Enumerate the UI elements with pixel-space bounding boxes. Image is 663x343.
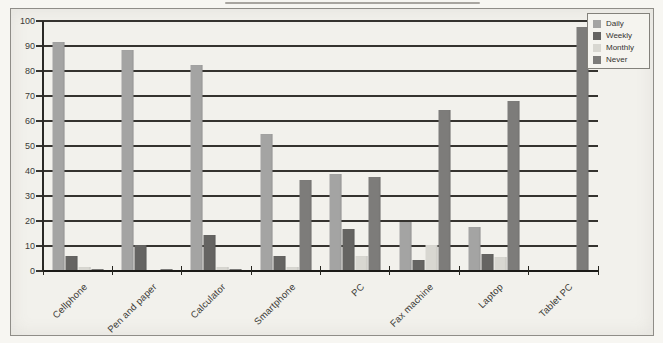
bar-daily-laptop (468, 227, 480, 271)
legend-item-weekly: Weekly (593, 31, 645, 40)
bar-never-pc (369, 177, 381, 271)
x-axis-label: Smartphone (251, 281, 297, 327)
bar-cluster (52, 21, 103, 271)
bar-cluster (468, 21, 519, 271)
legend: DailyWeeklyMonthlyNever (587, 13, 650, 69)
bar-cluster (399, 21, 450, 271)
legend-swatch-never (593, 56, 601, 64)
category-group-pen-and-paper (112, 21, 181, 271)
bar-cluster (191, 21, 242, 271)
x-axis-label: Pen and paper (105, 281, 159, 335)
bar-monthly-fax-machine (425, 245, 437, 271)
bar-daily-pc (330, 174, 342, 272)
y-tick-label-100: 100 (9, 16, 35, 26)
bar-daily-fax-machine (399, 222, 411, 271)
x-axis-tick (43, 266, 44, 275)
bar-daily-smartphone (260, 134, 272, 272)
x-axis-tick (112, 266, 113, 275)
y-tick-label-10: 10 (9, 241, 35, 251)
category-group-laptop (459, 21, 528, 271)
y-tick-label-50: 50 (9, 141, 35, 151)
bar-weekly-calculator (204, 235, 216, 271)
y-tick-label-20: 20 (9, 216, 35, 226)
bar-never-smartphone (299, 180, 311, 271)
bar-cluster (538, 21, 589, 271)
category-group-calculator (182, 21, 251, 271)
legend-item-daily: Daily (593, 19, 645, 28)
x-axis-tick (528, 266, 529, 275)
y-tick-label-90: 90 (9, 41, 35, 51)
bar-daily-pen-and-paper (122, 50, 134, 271)
bar-weekly-cellphone (65, 256, 77, 271)
bar-cluster (330, 21, 381, 271)
bar-never-laptop (507, 101, 519, 271)
x-axis-label: Laptop (476, 281, 505, 310)
category-group-pc (321, 21, 390, 271)
bar-monthly-laptop (494, 257, 506, 271)
chart-frame: 0102030405060708090100CellphonePen and p… (10, 8, 654, 336)
y-tick-label-80: 80 (9, 66, 35, 76)
bar-never-fax-machine (438, 110, 450, 271)
x-axis-tick (459, 266, 460, 275)
legend-label-monthly: Monthly (606, 43, 634, 52)
legend-label-daily: Daily (606, 19, 624, 28)
plot-area: 0102030405060708090100CellphonePen and p… (43, 21, 598, 271)
y-tick-label-70: 70 (9, 91, 35, 101)
legend-label-never: Never (606, 55, 627, 64)
y-tick-label-30: 30 (9, 191, 35, 201)
bar-weekly-laptop (481, 254, 493, 272)
bar-weekly-pen-and-paper (135, 245, 147, 271)
legend-item-monthly: Monthly (593, 43, 645, 52)
bar-cluster (260, 21, 311, 271)
x-axis-tick (181, 266, 182, 275)
bar-cluster (122, 21, 173, 271)
bar-weekly-smartphone (273, 256, 285, 271)
x-axis-tick (389, 266, 390, 275)
x-axis-label: Calculator (188, 281, 227, 320)
bar-weekly-pc (343, 229, 355, 272)
category-group-cellphone (43, 21, 112, 271)
bar-daily-cellphone (52, 42, 64, 271)
bar-monthly-pc (356, 256, 368, 271)
x-axis-label: Cellphone (50, 281, 89, 320)
bar-daily-calculator (191, 65, 203, 271)
x-axis-label: Tablet PC (536, 281, 574, 319)
x-axis-tick (251, 266, 252, 275)
y-tick-label-60: 60 (9, 116, 35, 126)
x-axis-label: PC (349, 281, 366, 298)
y-axis-line (42, 21, 44, 271)
legend-swatch-weekly (593, 32, 601, 40)
legend-swatch-monthly (593, 44, 601, 52)
x-axis-label: Fax machine (388, 281, 436, 329)
legend-swatch-daily (593, 20, 601, 28)
y-tick-label-40: 40 (9, 166, 35, 176)
x-axis-tick (320, 266, 321, 275)
category-group-smartphone (251, 21, 320, 271)
x-axis-tick (598, 266, 599, 275)
photo-artifact-line (225, 2, 480, 4)
legend-item-never: Never (593, 55, 645, 64)
y-tick-label-0: 0 (9, 266, 35, 276)
legend-label-weekly: Weekly (606, 31, 632, 40)
category-group-fax-machine (390, 21, 459, 271)
